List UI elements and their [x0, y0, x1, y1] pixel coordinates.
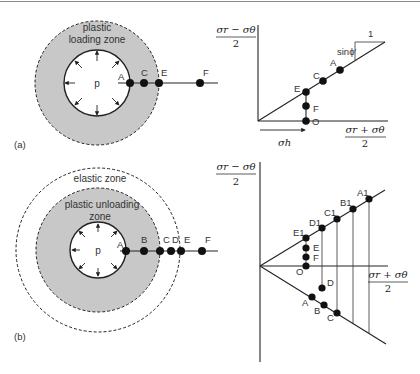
point-e [177, 247, 185, 255]
panel-b-cavity-diagram: p elastic zone plastic unloading zone A … [14, 168, 218, 342]
label-b: B [141, 234, 147, 245]
point-f [196, 79, 204, 87]
sigma-h-label: σh [278, 137, 291, 148]
plot-point-o [302, 117, 310, 125]
elastic-zone-label: elastic zone [74, 173, 127, 184]
label-a: A [118, 71, 125, 82]
plot-point-f [302, 102, 310, 110]
plot-label-e1: E1 [293, 227, 305, 238]
panel-a-stress-plot: sinϕ′ 1 σr − σθ 2 σr + σθ 2 σh A C E F O [216, 24, 388, 149]
panel-a-cavity-diagram: p plastic loading zone A C E F (a) [14, 21, 218, 150]
plot-point-o [302, 262, 309, 269]
plot-point-a [308, 293, 315, 300]
point-e [155, 79, 163, 87]
point-d [167, 247, 175, 255]
y-axis-numerator: σr − σθ [216, 24, 255, 35]
plot-label-d1: D1 [309, 217, 321, 228]
figure-canvas: p plastic loading zone A C E F (a) sinϕ′… [0, 0, 420, 374]
plot-label-d: D [327, 277, 334, 288]
plot-point-e [302, 88, 310, 96]
plot-label-f: F [313, 103, 319, 114]
plot-point-d [318, 284, 325, 291]
plot-point-a [336, 66, 344, 74]
plot-label-b1: B1 [340, 197, 352, 208]
point-a [126, 79, 134, 87]
slope-label: sinϕ′ [337, 46, 356, 57]
y-axis-numerator: σr − σθ [216, 161, 255, 172]
panel-b-tag: (b) [14, 331, 26, 342]
x-axis-denominator: 2 [385, 283, 391, 294]
plot-label-o: O [312, 116, 319, 127]
cavity-pressure-label: p [94, 78, 100, 89]
plot-point-b [320, 301, 327, 308]
plot-label-a: A [330, 57, 337, 68]
x-axis-denominator: 2 [362, 138, 368, 149]
zone-label-line2: zone [89, 211, 111, 222]
x-axis-numerator: σr + σθ [368, 269, 407, 280]
label-c: C [163, 234, 170, 245]
zone-label-line1: plastic unloading [65, 199, 140, 210]
label-d: D [172, 234, 179, 245]
point-c [156, 247, 164, 255]
plot-label-c: C [327, 312, 334, 323]
label-f: F [203, 67, 209, 78]
label-f: F [205, 234, 211, 245]
zone-label-line1: plastic [83, 22, 111, 33]
plot-label-a1: A1 [357, 187, 369, 198]
point-c [140, 79, 148, 87]
plot-label-b: B [314, 305, 320, 316]
y-axis-denominator: 2 [233, 38, 239, 49]
point-f [198, 247, 206, 255]
plot-label-e: E [294, 83, 300, 94]
panel-b-stress-plot: σr − σθ 2 σr + σθ 2 E1 D1 C1 B1 A1 E F O [216, 161, 408, 362]
y-axis-denominator: 2 [233, 176, 239, 187]
zone-label-line2: loading zone [69, 34, 126, 45]
plot-label-o: O [296, 266, 303, 277]
plot-label-a: A [302, 297, 309, 308]
label-c: C [141, 67, 148, 78]
panel-a-tag: (a) [14, 139, 26, 150]
plot-point-c [319, 77, 327, 85]
plot-point-f [302, 253, 309, 260]
plot-label-c: C [313, 70, 320, 81]
point-b [140, 247, 148, 255]
label-e: E [161, 67, 167, 78]
plot-point-e [302, 244, 309, 251]
plot-label-c1: C1 [324, 207, 336, 218]
plot-point-c [333, 309, 340, 316]
cavity-pressure-label: p [95, 245, 101, 256]
label-a: A [117, 239, 124, 250]
x-axis-numerator: σr + σθ [345, 124, 384, 135]
label-e: E [184, 234, 190, 245]
slope-run-label: 1 [368, 28, 373, 39]
plot-label-f: F [313, 252, 319, 263]
